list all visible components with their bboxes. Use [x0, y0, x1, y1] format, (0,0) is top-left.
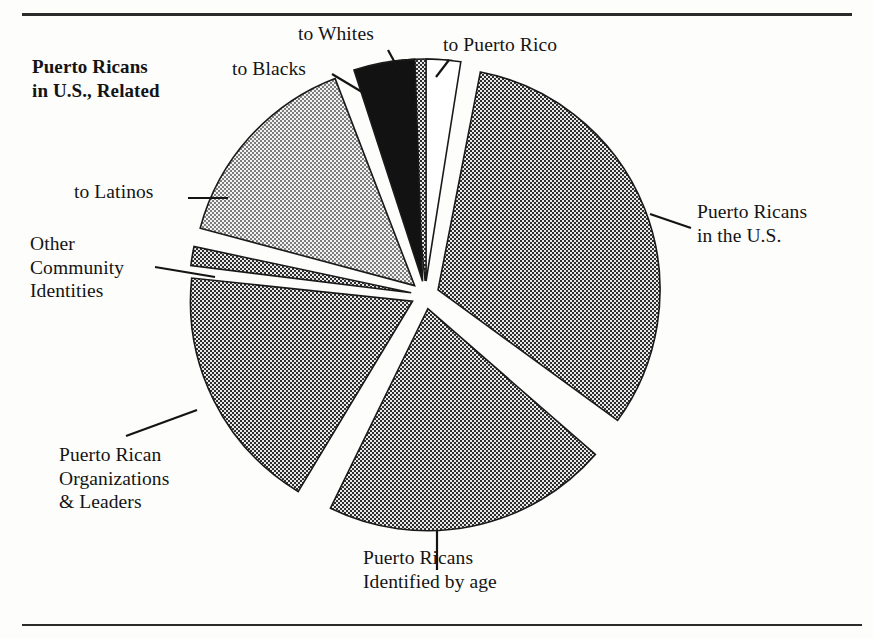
slice-label-to-blacks: to Blacks	[232, 57, 306, 81]
slice-label-to-whites: to Whites	[298, 22, 374, 46]
slice-label-puerto-rican-organizations: Puerto Rican Organizations & Leaders	[59, 443, 169, 514]
slice-label-to-latinos: to Latinos	[74, 180, 154, 204]
slice-label-other-community-identities: Other Community Identities	[30, 232, 124, 303]
chart-title: Puerto Ricans in U.S., Related	[32, 55, 262, 103]
slice-label-to-puerto-rico: to Puerto Rico	[443, 33, 557, 57]
slice-label-puerto-ricans-in-us: Puerto Ricans in the U.S.	[697, 200, 807, 247]
pie-slice-group	[190, 59, 660, 531]
figure-canvas: Puerto Ricans in U.S., Related to Blacks…	[0, 0, 873, 639]
leader-line	[126, 410, 197, 436]
leader-line	[650, 214, 691, 228]
leader-line	[155, 267, 215, 277]
slice-label-puerto-ricans-identified-by-age: Puerto Ricans Identified by age	[363, 546, 497, 593]
